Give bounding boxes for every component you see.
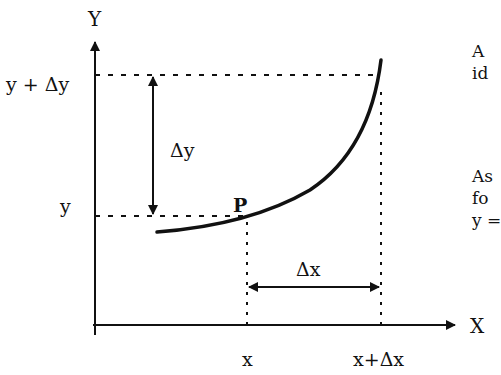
tick-label-y: y bbox=[59, 195, 71, 217]
point-p-label: P bbox=[233, 194, 247, 216]
side-text-line: id bbox=[472, 62, 488, 84]
side-text-block-1: A id bbox=[472, 40, 488, 84]
side-text-line: As bbox=[472, 165, 501, 187]
x-axis-label: X bbox=[470, 314, 485, 338]
side-text-line: fo bbox=[472, 187, 501, 209]
tick-label-y-plus-dy: y + Δy bbox=[5, 73, 69, 95]
y-axis-label: Y bbox=[87, 7, 102, 31]
delta-y-label: Δy bbox=[170, 139, 195, 161]
side-text-block-2: As fo y = bbox=[472, 165, 501, 231]
side-text-line: y = bbox=[472, 209, 501, 231]
delta-x-label: Δx bbox=[296, 258, 321, 280]
tick-label-x: x bbox=[242, 348, 253, 370]
tick-label-x-plus-dx: x+Δx bbox=[353, 348, 404, 370]
side-text-line: A bbox=[472, 40, 488, 62]
